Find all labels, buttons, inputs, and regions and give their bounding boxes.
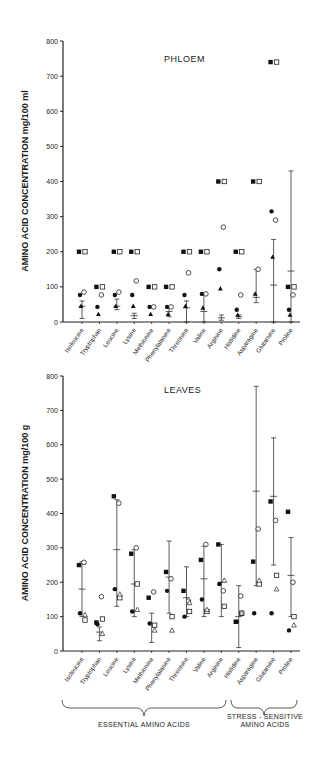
open-triangle-point bbox=[152, 628, 157, 632]
y-tick-label: 500 bbox=[46, 143, 58, 150]
filled-square-point bbox=[181, 250, 185, 254]
open-circle-point bbox=[256, 267, 261, 272]
error-bar bbox=[288, 538, 295, 617]
filled-square-point bbox=[129, 552, 133, 556]
category-label: Lysine bbox=[121, 655, 138, 675]
filled-square-point bbox=[251, 179, 255, 183]
category-label: Lysine bbox=[121, 326, 138, 346]
open-circle-point bbox=[134, 279, 139, 284]
error-bar bbox=[131, 313, 138, 318]
open-square-point bbox=[292, 285, 296, 289]
filled-square-point bbox=[216, 179, 220, 183]
open-square-point bbox=[170, 285, 174, 289]
error-bar bbox=[79, 301, 86, 319]
amino-acid-figure: PHLOEM AMINO ACID CONCENTRATION mg/100 m… bbox=[0, 0, 321, 769]
filled-square-point bbox=[77, 563, 81, 567]
open-circle-point bbox=[291, 293, 296, 298]
open-circle-point bbox=[169, 577, 174, 582]
open-triangle-point bbox=[292, 623, 297, 627]
category-label: Leucine bbox=[101, 655, 120, 677]
filled-triangle-point bbox=[253, 291, 258, 295]
category-label: Valine bbox=[191, 326, 207, 344]
filled-circle-point bbox=[113, 587, 117, 591]
open-triangle-point bbox=[222, 578, 227, 582]
open-circle-point bbox=[221, 589, 226, 594]
filled-square-point bbox=[234, 250, 238, 254]
filled-circle-point bbox=[200, 597, 204, 601]
filled-square-point bbox=[129, 250, 133, 254]
open-circle-point bbox=[82, 290, 87, 295]
open-square-point bbox=[152, 623, 156, 627]
open-circle-point bbox=[117, 290, 122, 295]
filled-triangle-point bbox=[201, 305, 206, 309]
filled-circle-point bbox=[78, 293, 82, 297]
filled-triangle-point bbox=[148, 312, 153, 316]
open-circle-point bbox=[117, 501, 122, 506]
filled-triangle-point bbox=[96, 312, 101, 316]
filled-circle-point bbox=[113, 293, 117, 297]
category-label: Valine bbox=[191, 655, 207, 673]
filled-square-point bbox=[286, 285, 290, 289]
filled-triangle-point bbox=[183, 304, 188, 308]
filled-triangle-point bbox=[288, 312, 293, 316]
filled-circle-point bbox=[235, 308, 239, 312]
filled-square-point bbox=[112, 250, 116, 254]
filled-circle-point bbox=[287, 628, 291, 632]
open-square-point bbox=[187, 609, 191, 613]
filled-square-point bbox=[268, 60, 272, 64]
filled-triangle-point bbox=[166, 312, 171, 316]
error-bar bbox=[253, 269, 260, 302]
open-circle-point bbox=[82, 560, 87, 565]
open-circle-point bbox=[186, 271, 191, 276]
open-square-point bbox=[83, 618, 87, 622]
y-tick-label: 0 bbox=[54, 319, 58, 326]
open-circle-point bbox=[99, 594, 104, 599]
phloem-y-axis-label: AMINO ACID CONCENTRATION mg/100 ml bbox=[20, 90, 30, 272]
filled-square-point bbox=[199, 250, 203, 254]
y-tick-label: 700 bbox=[46, 73, 58, 80]
open-square-point bbox=[240, 250, 244, 254]
filled-circle-point bbox=[182, 293, 186, 297]
open-circle-point bbox=[204, 292, 209, 297]
filled-circle-point bbox=[269, 611, 273, 615]
open-circle-point bbox=[273, 518, 278, 523]
open-triangle-point bbox=[117, 592, 122, 596]
open-circle-point bbox=[134, 546, 139, 551]
filled-circle-point bbox=[147, 621, 151, 625]
y-tick-label: 300 bbox=[46, 213, 58, 220]
filled-square-point bbox=[286, 510, 290, 514]
open-triangle-point bbox=[274, 587, 279, 591]
filled-triangle-point bbox=[218, 286, 223, 290]
error-bar bbox=[200, 546, 207, 616]
essential-group-label: ESSENTIAL AMINO ACIDS bbox=[98, 721, 190, 728]
y-tick-label: 700 bbox=[46, 407, 58, 414]
open-square-point bbox=[222, 604, 226, 608]
open-square-point bbox=[222, 179, 226, 183]
open-triangle-point bbox=[257, 578, 262, 582]
open-square-point bbox=[100, 617, 104, 621]
essential-brace bbox=[62, 700, 226, 716]
filled-circle-point bbox=[269, 209, 273, 213]
phloem-title: PHLOEM bbox=[164, 54, 205, 64]
open-circle-point bbox=[273, 218, 278, 223]
open-triangle-point bbox=[135, 607, 140, 611]
filled-square-point bbox=[216, 542, 220, 546]
filled-square-point bbox=[199, 558, 203, 562]
y-tick-label: 400 bbox=[46, 510, 58, 517]
filled-circle-point bbox=[165, 589, 169, 593]
y-tick-label: 0 bbox=[54, 648, 58, 655]
open-triangle-point bbox=[170, 628, 175, 632]
stress-group-label-line1: STRESS - SENSITIVE bbox=[227, 713, 303, 720]
filled-square-point bbox=[146, 285, 150, 289]
open-circle-point bbox=[151, 305, 156, 310]
filled-square-point bbox=[146, 596, 150, 600]
error-bar bbox=[270, 239, 277, 322]
filled-circle-point bbox=[217, 267, 221, 271]
open-square-point bbox=[170, 614, 174, 618]
y-tick-label: 600 bbox=[46, 108, 58, 115]
y-tick-label: 100 bbox=[46, 613, 58, 620]
category-label: Proline bbox=[277, 326, 294, 346]
phloem-panel: PHLOEM AMINO ACID CONCENTRATION mg/100 m… bbox=[20, 38, 300, 364]
group-braces: ESSENTIAL AMINO ACIDS STRESS - SENSITIVE… bbox=[62, 700, 303, 728]
open-circle-point bbox=[238, 594, 243, 599]
